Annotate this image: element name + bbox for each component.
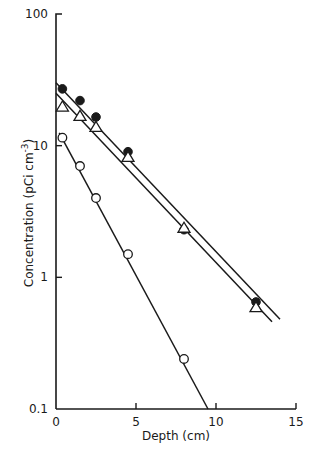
y-axis-label-main: Concentration (pCi cm [22, 152, 36, 287]
filled-circle-marker [92, 113, 101, 122]
open-triangle-marker [56, 101, 68, 111]
y-axis-label-superscript: -3 [20, 143, 30, 152]
filled-circle-marker [58, 85, 67, 94]
open-circle-marker [58, 133, 67, 142]
chart-canvas: 1001010.1051015 Depth (cm) Concentration… [0, 0, 310, 454]
svg-text:Concentration (pCi cm-3): Concentration (pCi cm-3) [20, 139, 36, 288]
y-tick-label: 1 [40, 270, 48, 284]
y-tick-label: 0.1 [29, 402, 48, 416]
x-tick-label: 10 [208, 415, 223, 429]
filled-circle-marker [76, 96, 85, 105]
concentration-depth-chart: 1001010.1051015 Depth (cm) Concentration… [0, 0, 310, 454]
open-circle-marker [92, 194, 101, 203]
x-tick-label: 0 [52, 415, 60, 429]
y-axis-label: Concentration (pCi cm-3) [20, 139, 36, 288]
y-axis-label-close: ) [22, 139, 36, 144]
open-circle-marker [180, 355, 189, 364]
y-tick-label: 100 [25, 7, 48, 21]
fit-line [56, 93, 272, 321]
x-tick-label: 5 [132, 415, 140, 429]
open-circle-marker [76, 162, 85, 171]
open-circle-marker [124, 250, 133, 259]
fit-line [56, 83, 280, 319]
x-axis-label: Depth (cm) [142, 429, 210, 443]
open-triangle-marker [90, 121, 102, 131]
x-tick-label: 15 [288, 415, 303, 429]
y-axis-line [56, 14, 62, 409]
axes: 1001010.1051015 [25, 7, 304, 429]
